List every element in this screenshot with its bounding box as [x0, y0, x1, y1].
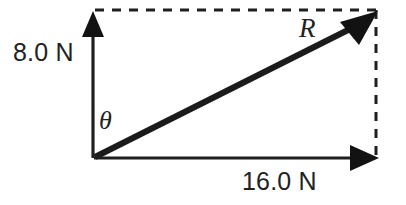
vector-diagram-canvas	[0, 0, 406, 205]
resultant-vector-arrowhead	[340, 11, 378, 45]
angle-theta-label: θ	[99, 108, 112, 134]
resultant-vector-shaft	[95, 28, 352, 157]
vector-diagram: 8.0 N 16.0 N R θ	[0, 0, 406, 205]
horizontal-component-label: 16.0 N	[242, 169, 317, 194]
resultant-label: R	[299, 15, 316, 42]
vertical-component-label: 8.0 N	[13, 40, 74, 65]
vertical-vector-arrowhead	[82, 11, 104, 37]
